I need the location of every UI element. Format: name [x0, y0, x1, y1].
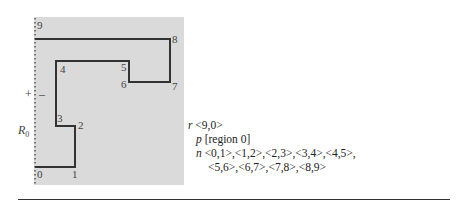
n-key: n [196, 147, 202, 159]
vertex-label-9: 9 [37, 20, 43, 31]
vertex-label-6: 6 [121, 79, 127, 90]
region-path [35, 39, 170, 167]
polygon-figure [0, 0, 463, 207]
p-value: [region 0] [205, 133, 251, 145]
r-value: <9,0> [195, 119, 222, 131]
vertex-label-3: 3 [57, 113, 63, 124]
vertex-label-1: 1 [72, 169, 78, 180]
bottom-rule [18, 199, 450, 200]
n-value-2: <5,6>,<6,7>,<7,8>,<8,9> [208, 161, 326, 173]
region-description: r <9,0> p [region 0] n <0,1>,<1,2>,<2,3>… [188, 118, 356, 174]
vertex-label-0: 0 [37, 169, 43, 180]
minus-sign: – [39, 88, 45, 100]
r-line: r <9,0> [188, 118, 356, 132]
vertex-label-7: 7 [172, 81, 178, 92]
region-subscript: 0 [25, 130, 29, 139]
vertex-label-4: 4 [60, 64, 66, 75]
vertex-label-8: 8 [172, 34, 178, 45]
n-value-1: <0,1>,<1,2>,<2,3>,<3,4>,<4,5>, [205, 147, 356, 159]
r-key: r [188, 119, 192, 131]
plus-sign: + [25, 88, 32, 100]
n-line-cont: <5,6>,<6,7>,<7,8>,<8,9> [188, 160, 356, 174]
vertex-label-5: 5 [121, 62, 127, 73]
n-line: n <0,1>,<1,2>,<2,3>,<3,4>,<4,5>, [188, 146, 356, 160]
p-key: p [196, 133, 202, 145]
p-line: p [region 0] [188, 132, 356, 146]
region-label: R0 [18, 124, 29, 139]
vertex-label-2: 2 [78, 120, 84, 131]
